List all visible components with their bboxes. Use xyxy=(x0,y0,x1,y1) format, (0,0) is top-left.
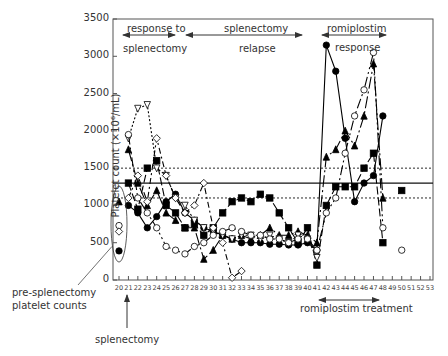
x-tick-label: 53 xyxy=(426,284,434,292)
series-patient-circle-open xyxy=(125,49,405,257)
y-tick-label: 1500 xyxy=(69,161,109,172)
x-tick-label: 31 xyxy=(219,284,227,292)
y-tick-label: 2000 xyxy=(69,124,109,135)
x-tick-label: 22 xyxy=(134,284,142,292)
annotation-romiplostim-treatment: romiplostim treatment xyxy=(300,303,413,314)
annotation-splenectomy-relapse-top: splenectomy xyxy=(224,23,288,34)
y-tick-label: 3000 xyxy=(69,49,109,60)
x-tick-label: 24 xyxy=(153,284,161,292)
x-tick-label: 30 xyxy=(209,284,217,292)
x-tick-label: 33 xyxy=(237,284,245,292)
x-tick-label: 47 xyxy=(369,284,377,292)
x-tick-label: 34 xyxy=(247,284,255,292)
x-tick-label: 39 xyxy=(294,284,302,292)
x-tick-label: 35 xyxy=(256,284,264,292)
y-tick-label: 0 xyxy=(69,273,109,284)
x-tick-label: 23 xyxy=(143,284,151,292)
annotation-splenectomy-response: splenectomy xyxy=(123,43,187,54)
x-tick-label: 52 xyxy=(416,284,424,292)
y-tick-label: 1000 xyxy=(69,198,109,209)
x-tick-label: 40 xyxy=(303,284,311,292)
annotation-splenectomy-event: splenectomy xyxy=(95,334,159,345)
series-patient-triangle-filled xyxy=(125,60,386,262)
x-tick-label: 29 xyxy=(200,284,208,292)
x-tick-label: 21 xyxy=(124,284,132,292)
y-tick-label: 2500 xyxy=(69,87,109,98)
annotation-response-to: response to xyxy=(127,23,186,34)
y-axis-label: Platelet count (×10⁶/mL) xyxy=(110,93,121,217)
x-tick-label: 44 xyxy=(341,284,349,292)
x-tick-label: 49 xyxy=(388,284,396,292)
annotation-response: response xyxy=(335,42,380,53)
x-tick-label: 37 xyxy=(275,284,283,292)
x-tick-label: 26 xyxy=(171,284,179,292)
x-tick-label: 42 xyxy=(322,284,330,292)
annotation-relapse: relapse xyxy=(239,43,276,54)
x-tick-label: 43 xyxy=(332,284,340,292)
x-tick-label: 27 xyxy=(181,284,189,292)
x-tick-label: 38 xyxy=(284,284,292,292)
y-tick-label: 3500 xyxy=(69,12,109,23)
x-tick-label: 41 xyxy=(313,284,321,292)
x-tick-label: 32 xyxy=(228,284,236,292)
annotation-pre-splenectomy-2: platelet counts xyxy=(12,300,87,311)
annotation-pre-splenectomy-1: pre-splenectomy xyxy=(12,287,96,298)
x-tick-label: 28 xyxy=(190,284,198,292)
x-tick-label: 20 xyxy=(115,284,123,292)
annotation-romiplostim: romiplostim xyxy=(327,23,386,34)
x-tick-label: 50 xyxy=(398,284,406,292)
x-tick-label: 48 xyxy=(379,284,387,292)
x-tick-label: 36 xyxy=(266,284,274,292)
x-tick-label: 51 xyxy=(407,284,415,292)
x-tick-label: 46 xyxy=(360,284,368,292)
x-tick-label: 25 xyxy=(162,284,170,292)
x-tick-label: 45 xyxy=(350,284,358,292)
y-tick-label: 500 xyxy=(69,236,109,247)
